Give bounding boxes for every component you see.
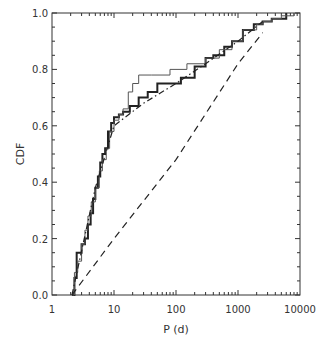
x-tick-label: 10000: [284, 304, 316, 315]
x-tick-label: 1000: [225, 304, 250, 315]
y-tick-label: 0.2: [32, 234, 48, 245]
x-tick-label: 10: [108, 304, 121, 315]
x-tick-label: 100: [166, 304, 185, 315]
series-dash-dot-model: [72, 21, 263, 295]
x-axis-title: P (d): [163, 323, 189, 336]
y-tick-label: 0.0: [32, 290, 48, 301]
y-tick-label: 0.8: [32, 64, 48, 75]
y-axis-title: CDF: [14, 143, 27, 165]
plot-frame: [52, 13, 300, 295]
x-tick-label: 1: [49, 304, 55, 315]
y-tick-label: 0.6: [32, 121, 48, 132]
y-tick-label: 0.4: [32, 177, 48, 188]
y-tick-label: 1.0: [32, 8, 48, 19]
cdf-chart: 1101001000100000.00.20.40.60.81.0P (d)CD…: [0, 0, 326, 344]
